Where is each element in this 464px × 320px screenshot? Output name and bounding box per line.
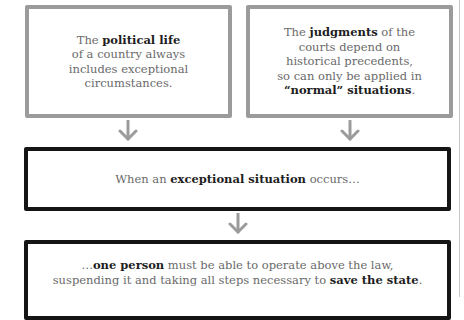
text-line: suspending it and taking all steps neces…	[53, 273, 423, 288]
box-text: The judgments of the courts depend on hi…	[277, 25, 422, 98]
text-line: The judgments of the	[277, 25, 422, 40]
text-line: “normal” situations.	[277, 83, 422, 98]
arrow-down-icon	[228, 213, 248, 235]
text-line: …one person must be able to operate abov…	[53, 258, 423, 273]
text-line: courts depend on	[277, 40, 422, 55]
text-line: The political life	[69, 33, 188, 48]
premise-box-political-life: The political life of a country always i…	[25, 5, 232, 118]
box-text: …one person must be able to operate abov…	[53, 258, 423, 287]
arrow-down-icon	[340, 120, 360, 142]
box-text: The political life of a country always i…	[69, 33, 188, 91]
condition-box-exceptional-situation: When an exceptional situation occurs…	[24, 147, 451, 211]
text-line: of a country always	[69, 47, 188, 62]
conclusion-box-one-person: …one person must be able to operate abov…	[24, 240, 451, 320]
box-text: When an exceptional situation occurs…	[115, 172, 360, 187]
text-line: circumstances.	[69, 76, 188, 91]
text-line: historical precedents,	[277, 54, 422, 69]
arrow-down-icon	[118, 120, 138, 142]
premise-box-court-judgments: The judgments of the courts depend on hi…	[246, 5, 453, 118]
text-line: When an exceptional situation occurs…	[115, 172, 360, 187]
text-line: includes exceptional	[69, 62, 188, 77]
page-edge-divider	[459, 0, 460, 297]
text-line: so can only be applied in	[277, 69, 422, 84]
